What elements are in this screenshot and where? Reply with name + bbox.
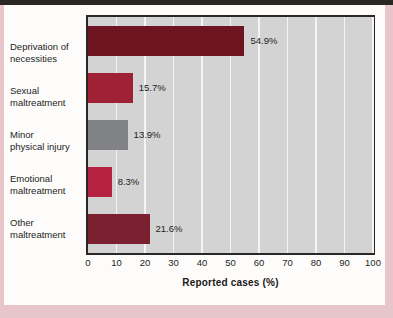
bar <box>88 214 150 244</box>
category-label-deprivation-of-necessities: Deprivation of necessities <box>10 41 86 64</box>
category-label-line: maltreatment <box>10 185 86 197</box>
bar <box>88 26 244 56</box>
plot-area: 54.9%15.7%13.9%8.3%21.6% <box>86 15 375 255</box>
category-label-minor-physical-injury: Minor physical injury <box>10 129 86 152</box>
gridline <box>372 17 374 253</box>
x-tick-label: 30 <box>168 257 179 268</box>
x-tick-label: 50 <box>225 257 236 268</box>
bar-value-label: 21.6% <box>156 223 183 234</box>
category-label-line: maltreatment <box>10 97 86 109</box>
category-label-line: necessities <box>10 53 86 65</box>
x-axis-tick-labels: 0102030405060708090100 <box>86 257 375 273</box>
category-label-emotional-maltreatment: Emotional maltreatment <box>10 173 86 196</box>
category-label-line: Sexual <box>10 85 86 97</box>
bar-value-label: 13.9% <box>134 129 161 140</box>
bar-chart: Deprivation of necessities Sexual maltre… <box>4 5 385 305</box>
x-tick-label: 0 <box>85 257 90 268</box>
category-label-other-maltreatment: Other maltreatment <box>10 217 86 240</box>
bar-value-label: 54.9% <box>250 35 277 46</box>
category-label-line: Deprivation of <box>10 41 86 53</box>
plot-inner: 54.9%15.7%13.9%8.3%21.6% <box>88 17 373 253</box>
figure-root: Deprivation of necessities Sexual maltre… <box>0 0 393 318</box>
x-tick-label: 100 <box>365 257 381 268</box>
bar <box>88 167 112 197</box>
gridline <box>287 17 289 253</box>
category-label-line: Minor <box>10 129 86 141</box>
x-axis-title: Reported cases (%) <box>86 277 375 288</box>
bar-value-label: 15.7% <box>139 82 166 93</box>
x-tick-label: 90 <box>339 257 350 268</box>
x-tick-label: 20 <box>140 257 151 268</box>
x-tick-label: 80 <box>311 257 322 268</box>
x-tick-label: 40 <box>197 257 208 268</box>
gridline <box>344 17 346 253</box>
category-axis-labels: Deprivation of necessities Sexual maltre… <box>10 15 86 255</box>
category-label-sexual-maltreatment: Sexual maltreatment <box>10 85 86 108</box>
category-label-line: Emotional <box>10 173 86 185</box>
x-tick-label: 70 <box>282 257 293 268</box>
category-label-line: physical injury <box>10 141 86 153</box>
category-label-line: maltreatment <box>10 229 86 241</box>
bar-value-label: 8.3% <box>118 176 140 187</box>
category-label-line: Other <box>10 217 86 229</box>
gridline <box>258 17 260 253</box>
x-tick-label: 10 <box>111 257 122 268</box>
figure-card: Deprivation of necessities Sexual maltre… <box>4 5 385 305</box>
bar <box>88 120 128 150</box>
bar <box>88 73 133 103</box>
x-tick-label: 60 <box>254 257 265 268</box>
gridline <box>315 17 317 253</box>
